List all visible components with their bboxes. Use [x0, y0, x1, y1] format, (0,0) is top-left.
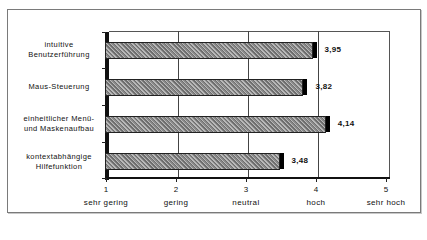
- y-tick: [102, 68, 106, 69]
- x-tick-label: gering: [146, 198, 206, 207]
- x-tick: [176, 178, 177, 182]
- bar-3d-end: [326, 116, 330, 132]
- x-tick: [316, 178, 317, 182]
- category-label: kontextabhängige Hilfefunktion: [14, 152, 104, 172]
- y-tick: [102, 32, 106, 33]
- bar-3d-end: [303, 79, 307, 95]
- x-tick-label: sehr hoch: [356, 198, 416, 207]
- x-tick: [106, 178, 107, 182]
- category-label-line: kontextabhängige: [14, 152, 104, 162]
- value-label: 3,95: [325, 45, 342, 54]
- y-tick: [102, 142, 106, 143]
- x-tick-number: 3: [236, 185, 256, 194]
- x-tick-number: 5: [376, 185, 396, 194]
- bar: [105, 116, 326, 133]
- x-tick-label: neutral: [216, 198, 276, 207]
- category-label-line: Maus-Steuerung: [14, 82, 104, 92]
- x-axis-floor: [105, 177, 390, 179]
- bar: [105, 79, 303, 96]
- x-tick: [246, 178, 247, 182]
- x-tick-number: 4: [306, 185, 326, 194]
- category-label: einheitlicher Menü- und Maskenaufbau: [14, 114, 104, 134]
- category-label-line: und Maskenaufbau: [14, 124, 104, 134]
- x-tick-label: sehr gering: [76, 198, 136, 207]
- bar: [105, 42, 313, 59]
- category-label-line: Hilfefunktion: [14, 162, 104, 172]
- category-label-line: intuitive: [14, 40, 104, 50]
- gridline-4: [318, 31, 319, 178]
- x-tick-number: 1: [96, 185, 116, 194]
- x-tick: [386, 178, 387, 182]
- category-label: Maus-Steuerung: [14, 82, 104, 92]
- bar-3d-end: [313, 42, 317, 58]
- x-tick-label: hoch: [286, 198, 346, 207]
- category-label-line: einheitlicher Menü-: [14, 114, 104, 124]
- value-label: 4,14: [338, 119, 355, 128]
- category-label: intuitive Benutzerführung: [14, 40, 104, 60]
- bar-3d-end: [280, 153, 284, 169]
- value-label: 3,82: [315, 82, 332, 91]
- y-tick: [102, 105, 106, 106]
- x-tick-number: 2: [166, 185, 186, 194]
- bar: [105, 153, 280, 170]
- category-label-line: Benutzerführung: [14, 50, 104, 60]
- value-label: 3,48: [292, 156, 309, 165]
